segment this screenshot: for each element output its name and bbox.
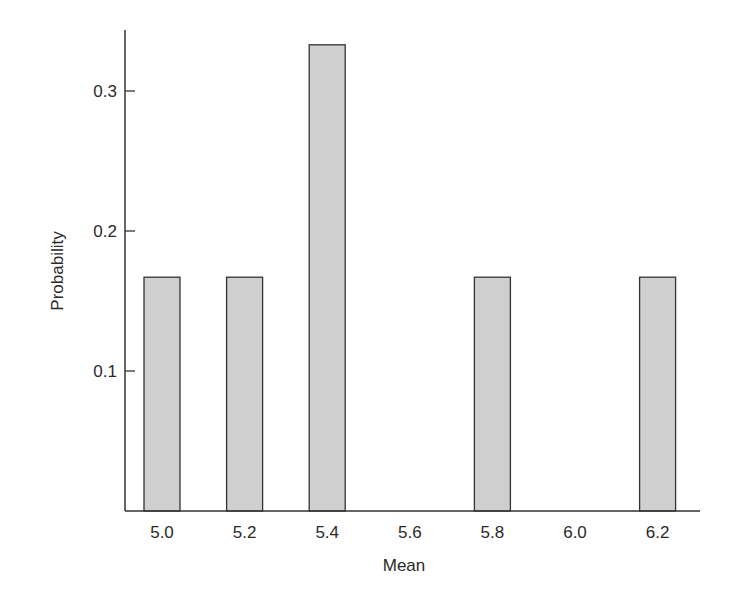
x-ticks-group: 5.05.25.45.65.86.06.2 bbox=[150, 523, 669, 542]
x-tick-label: 5.6 bbox=[398, 523, 422, 542]
x-tick-label: 5.8 bbox=[481, 523, 505, 542]
bar-5.2 bbox=[227, 277, 263, 511]
bar-chart: 0.10.20.3 5.05.25.45.65.86.06.2 Mean Pro… bbox=[0, 0, 736, 603]
bar-5.8 bbox=[474, 277, 510, 511]
y-tick-label: 0.3 bbox=[93, 82, 117, 101]
bars-group bbox=[144, 45, 676, 511]
x-tick-label: 6.0 bbox=[563, 523, 587, 542]
axes-group bbox=[125, 30, 700, 511]
x-tick-label: 5.0 bbox=[150, 523, 174, 542]
bar-5.0 bbox=[144, 277, 180, 511]
bar-5.4 bbox=[309, 45, 345, 511]
x-tick-label: 5.2 bbox=[233, 523, 257, 542]
x-axis-label: Mean bbox=[383, 556, 426, 575]
bar-6.2 bbox=[640, 277, 676, 511]
y-ticks-group: 0.10.20.3 bbox=[93, 82, 135, 381]
y-axis-label: Probability bbox=[48, 231, 67, 311]
x-tick-label: 6.2 bbox=[646, 523, 670, 542]
y-tick-label: 0.1 bbox=[93, 362, 117, 381]
x-tick-label: 5.4 bbox=[315, 523, 339, 542]
y-tick-label: 0.2 bbox=[93, 222, 117, 241]
